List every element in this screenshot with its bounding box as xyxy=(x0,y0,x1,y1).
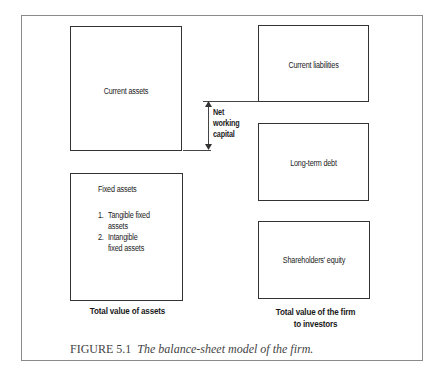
figure-caption-text: The balance-sheet model of the firm. xyxy=(137,342,313,356)
shareholders-equity-box: Shareholders' equity xyxy=(258,221,370,299)
fixed-assets-item-2-line2: fixed assets xyxy=(108,243,144,253)
nwc-label-line3: capital xyxy=(213,129,235,139)
fixed-assets-item-2-num: 2. xyxy=(98,232,104,242)
current-assets-box: Current assets xyxy=(70,26,182,151)
figure-number: FIGURE 5.1 xyxy=(70,342,131,356)
total-value-firm-label-line1: Total value of the firm xyxy=(258,306,373,317)
nwc-arrow-shaft xyxy=(208,104,209,148)
current-liabilities-box: Current liabilities xyxy=(258,25,369,102)
fixed-assets-box: Fixed assets 1. Tangible fixed assets 2.… xyxy=(70,173,183,301)
arrow-down-icon xyxy=(205,144,212,150)
arrow-up-icon xyxy=(205,101,212,107)
nwc-label-line2: working xyxy=(213,118,240,128)
shareholders-equity-label: Shareholders' equity xyxy=(267,255,361,265)
fixed-assets-item-1-line2: assets xyxy=(108,221,128,231)
total-value-of-assets-label: Total value of assets xyxy=(70,305,185,316)
fixed-assets-label: Fixed assets xyxy=(98,184,137,194)
fixed-assets-item-1-num: 1. xyxy=(98,210,104,220)
fixed-assets-item-1-line1: Tangible fixed xyxy=(108,210,150,220)
current-liabilities-label: Current liabilities xyxy=(267,60,360,70)
nwc-bottom-line xyxy=(183,150,211,151)
fixed-assets-item-2-line1: Intangible xyxy=(108,232,138,242)
current-assets-label: Current assets xyxy=(79,86,173,96)
total-value-firm-label-line2: to investors xyxy=(258,318,373,329)
long-term-debt-box: Long-term debt xyxy=(258,123,369,201)
long-term-debt-label: Long-term debt xyxy=(267,158,360,168)
figure-caption: FIGURE 5.1 The balance-sheet model of th… xyxy=(70,342,313,357)
nwc-label-line1: Net xyxy=(213,107,224,117)
